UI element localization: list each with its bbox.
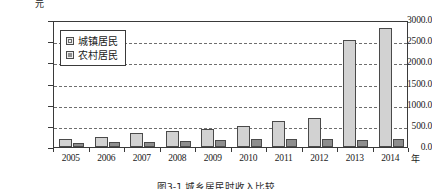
x-axis-unit-label: 年	[411, 154, 420, 165]
y-axis-unit-label: 元	[35, 0, 44, 9]
bar-rural	[393, 139, 404, 147]
bar-rural	[286, 139, 297, 147]
bar-rural	[322, 139, 333, 147]
bar-group	[237, 22, 262, 147]
legend-label-urban: 城镇居民	[78, 36, 118, 47]
bar-rural	[357, 140, 368, 147]
bar-urban	[59, 139, 72, 147]
bar-urban	[379, 28, 392, 147]
bar-urban	[308, 118, 321, 147]
x-axis-tick-label: 2006	[89, 153, 125, 164]
bar-rural	[215, 140, 226, 147]
bar-group	[130, 22, 155, 147]
x-axis-tick	[89, 148, 90, 152]
bar-rural	[144, 142, 155, 148]
legend-swatch-urban-icon	[66, 37, 74, 45]
bar-group	[308, 22, 333, 147]
x-axis-tick-label: 2013	[337, 153, 373, 164]
legend-item-urban: 城镇居民	[66, 34, 118, 48]
bar-urban	[343, 40, 356, 147]
bar-group	[343, 22, 368, 147]
chart-figure: 元 0.0500.01000.01500.02000.02500.03000.0…	[0, 0, 432, 189]
x-axis-tick	[53, 148, 54, 152]
x-axis-tick-label: 2005	[53, 153, 89, 164]
bar-group	[201, 22, 226, 147]
bar-group	[272, 22, 297, 147]
plot-area: 城镇居民 农村居民	[53, 21, 408, 148]
x-axis-tick-label: 2009	[195, 153, 231, 164]
x-axis-tick	[231, 148, 232, 152]
x-axis-tick-label: 2012	[302, 153, 338, 164]
bar-urban	[201, 129, 214, 147]
bar-group	[166, 22, 191, 147]
bar-rural	[109, 142, 120, 147]
bar-rural	[180, 141, 191, 147]
x-axis-tick-label: 2011	[266, 153, 302, 164]
x-axis-tick	[195, 148, 196, 152]
figure-caption: 图3-1 城乡居民时收入比较	[0, 181, 432, 189]
x-axis-tick-label: 2008	[160, 153, 196, 164]
x-axis-tick	[373, 148, 374, 152]
x-axis-tick	[266, 148, 267, 152]
legend-swatch-rural-icon	[66, 51, 74, 59]
legend: 城镇居民 农村居民	[60, 30, 126, 66]
legend-label-rural: 农村居民	[78, 50, 118, 61]
x-axis-tick	[302, 148, 303, 152]
bar-urban	[237, 126, 250, 147]
x-axis-tick	[160, 148, 161, 152]
bar-rural	[251, 139, 262, 147]
x-axis-tick-label: 2007	[124, 153, 160, 164]
bar-urban	[272, 121, 285, 147]
x-axis-tick	[337, 148, 338, 152]
x-axis-tick	[408, 148, 409, 152]
bar-group	[379, 22, 404, 147]
bar-urban	[130, 133, 143, 147]
legend-item-rural: 农村居民	[66, 48, 118, 62]
bar-rural	[73, 143, 84, 147]
x-axis-tick-label: 2010	[231, 153, 267, 164]
x-axis-tick	[124, 148, 125, 152]
bar-urban	[166, 131, 179, 147]
bar-urban	[95, 137, 108, 147]
x-axis-tick-label: 2014	[373, 153, 409, 164]
